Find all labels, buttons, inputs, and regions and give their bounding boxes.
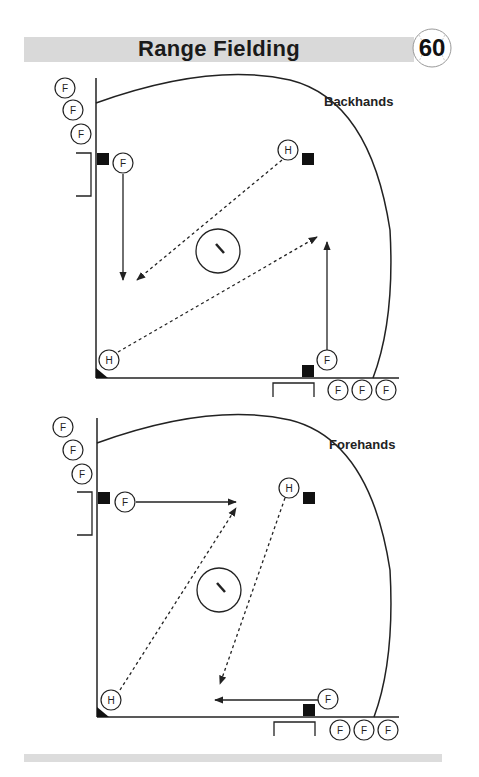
svg-text:F: F (383, 385, 389, 396)
forehands-diagram: F F F F H H F F F F (0, 410, 479, 750)
svg-text:F: F (120, 158, 126, 169)
footer-bar (24, 754, 442, 762)
svg-text:H: H (105, 355, 112, 366)
svg-text:F: F (79, 469, 85, 480)
svg-text:H: H (285, 483, 292, 494)
svg-text:F: F (70, 445, 76, 456)
svg-text:F: F (361, 725, 367, 736)
svg-text:F: F (324, 355, 330, 366)
svg-text:F: F (337, 725, 343, 736)
svg-text:F: F (385, 725, 391, 736)
svg-text:H: H (107, 695, 114, 706)
svg-text:F: F (70, 105, 76, 116)
svg-text:F: F (78, 129, 84, 140)
svg-text:F: F (335, 385, 341, 396)
svg-text:F: F (122, 497, 128, 508)
svg-text:F: F (325, 694, 331, 705)
svg-text:F: F (62, 83, 68, 94)
svg-text:F: F (60, 422, 66, 433)
fielder-left-queue: F F F (55, 78, 91, 144)
fielder-bottom-queue: F F F (328, 380, 396, 400)
svg-text:F: F (359, 385, 365, 396)
backhands-diagram: F F F F H H F F F F (0, 0, 479, 420)
svg-text:H: H (284, 145, 291, 156)
